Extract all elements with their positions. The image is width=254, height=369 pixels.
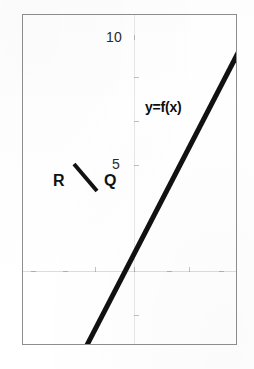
- graph-figure: 10 5 R Q y=f(x): [0, 0, 254, 369]
- point-label-r: R: [53, 172, 65, 190]
- function-label: y=f(x): [145, 99, 182, 115]
- plot-frame: 10 5 R Q y=f(x): [22, 14, 237, 345]
- secant-segment-rq: [74, 164, 97, 191]
- function-line: [86, 51, 237, 345]
- point-label-q: Q: [104, 172, 116, 190]
